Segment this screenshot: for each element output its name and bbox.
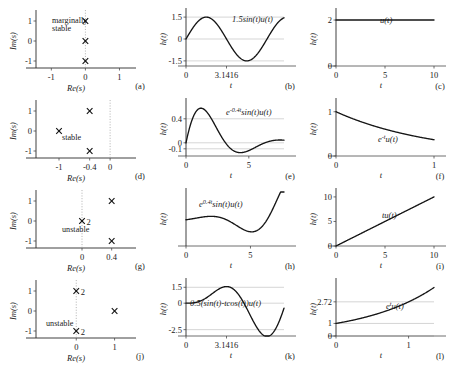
ytick-label: 0: [28, 306, 32, 316]
x-axis-label: t: [380, 170, 383, 180]
pole-multiplicity-label: 2: [87, 217, 91, 227]
xtick-label: 0: [83, 72, 87, 82]
xtick-label: -0.4: [83, 162, 97, 172]
subplot-j: -10101Re(s)Im(s)unstable22(j): [0, 270, 152, 364]
xtick-label: 0: [184, 340, 188, 350]
ytick-label: -1: [25, 146, 32, 156]
y-axis-label: Im(s): [8, 302, 18, 321]
ytick-label: 5: [328, 216, 332, 226]
pole-marker: [87, 148, 93, 154]
y-axis-label: h(t): [158, 33, 168, 45]
subplot-k: -2.501.503.1416th(t)0.5(sin(t)-tcos(t))u…: [150, 270, 302, 364]
ytick-label: 1: [328, 107, 332, 117]
panel-label-l: (l): [436, 351, 444, 361]
ytick-label: -1: [25, 326, 32, 336]
ytick-label: -2.5: [169, 325, 182, 335]
x-axis-label: t: [380, 260, 383, 270]
xtick-label: 1: [117, 72, 121, 82]
xtick-label: 1: [406, 340, 410, 350]
xtick-label: 1: [112, 342, 116, 352]
y-axis-label: h(t): [308, 303, 318, 315]
y-axis-label: Im(s): [8, 32, 18, 51]
ytick-label: 1.5: [171, 12, 182, 22]
x-axis-label: t: [380, 350, 383, 360]
pole-marker: [56, 128, 62, 134]
subplot-l: 012.7201th(t)etu(t)(l): [300, 270, 452, 364]
subplot-a: -101-101Re(s)Im(s)marginallystable(a): [0, 0, 152, 94]
subplot-h: 05th(t)e0.4tsin(t)u(t)(h): [150, 180, 302, 274]
xtick-label: 0: [334, 340, 338, 350]
equation-label: e-tu(t): [378, 133, 398, 144]
ytick-label: 0: [178, 138, 182, 148]
ytick-label: 1: [28, 106, 32, 116]
impulse-response-curve: [336, 197, 434, 246]
y-axis-label: Im(s): [8, 212, 18, 231]
xtick-label: 0: [184, 250, 188, 260]
subplot-b: -1.501.503.1416th(t)1.5sin(t)u(t)(b): [150, 0, 302, 94]
ytick-label: 0: [328, 331, 332, 341]
ytick-label: 0: [178, 34, 182, 44]
xtick-label: 10: [430, 250, 439, 260]
xtick-label: 0: [184, 160, 188, 170]
y-axis-label: h(t): [158, 213, 168, 225]
ytick-label: 0: [328, 61, 332, 71]
xtick-label: 0.4: [106, 252, 117, 262]
subplot-i: 05100510th(t)tu(t)(i): [300, 180, 452, 274]
ytick-label: 0: [28, 126, 32, 136]
pole-marker: [87, 108, 93, 114]
stability-annotation: stable: [52, 24, 71, 33]
subplot-c: 020510th(t)u(t)(c): [300, 0, 452, 94]
xtick-label: -1: [55, 162, 62, 172]
impulse-response-curve: [186, 287, 284, 336]
subplot-f: 0101th(t)e-tu(t)(f): [300, 90, 452, 184]
subplot-g: -10100.4Re(s)Im(s)unstable2(g): [0, 180, 152, 274]
ytick-label: 1.5: [171, 282, 182, 292]
stability-annotation: stable: [62, 133, 81, 142]
xtick-label: 0: [334, 70, 338, 80]
xtick-label: 0: [184, 70, 188, 80]
xtick-label: 1: [432, 160, 436, 170]
ytick-label: 1: [328, 318, 332, 328]
impulse-response-curve: [186, 192, 284, 232]
x-axis-label: t: [380, 80, 383, 90]
ytick-label: 0: [178, 298, 182, 308]
y-axis-label: h(t): [308, 33, 318, 45]
equation-label: tu(t): [382, 210, 397, 220]
xtick-label: 5: [247, 160, 251, 170]
equation-label: etu(t): [386, 300, 404, 311]
pole-marker: [109, 238, 115, 244]
ytick-label: 10: [324, 192, 333, 202]
x-axis-label: Re(s): [66, 353, 85, 363]
pole-multiplicity-label: 2: [81, 327, 85, 337]
ytick-label: 0: [28, 216, 32, 226]
stability-annotation: unstable: [46, 319, 74, 328]
xtick-label: 5: [383, 250, 387, 260]
xtick-label: 5: [383, 70, 387, 80]
x-axis-label: t: [230, 350, 233, 360]
xtick-label: 10: [430, 70, 439, 80]
equation-label: e-0.4tsin(t)u(t): [226, 106, 272, 117]
xtick-label: 0: [74, 342, 78, 352]
pole-multiplicity-label: 2: [81, 287, 85, 297]
ytick-label: 0: [328, 151, 332, 161]
pole-zero-impulse-response-figure: -101-101Re(s)Im(s)marginallystable(a)-1.…: [0, 0, 455, 374]
x-axis-label: t: [230, 260, 233, 270]
xtick-label: 0: [108, 162, 112, 172]
pole-marker: [112, 308, 118, 314]
ytick-label: 0: [28, 36, 32, 46]
equation-label: e0.4tsin(t)u(t): [199, 198, 243, 209]
ytick-label: 1: [28, 16, 32, 26]
subplot-e: -0.100.405th(t)e-0.4tsin(t)u(t)(e): [150, 90, 302, 184]
x-axis-label: t: [230, 170, 233, 180]
ytick-label: 1: [28, 196, 32, 206]
y-axis-label: h(t): [308, 123, 318, 135]
xtick-label: -1: [48, 72, 55, 82]
x-axis-label: t: [230, 80, 233, 90]
y-axis-label: h(t): [308, 213, 318, 225]
ytick-label: 0.4: [171, 114, 182, 124]
xtick-label: 0: [334, 160, 338, 170]
ytick-label: -1: [25, 236, 32, 246]
equation-label: 1.5sin(t)u(t): [232, 14, 273, 24]
ytick-label: 2.72: [317, 297, 332, 307]
impulse-response-curve: [336, 288, 434, 324]
